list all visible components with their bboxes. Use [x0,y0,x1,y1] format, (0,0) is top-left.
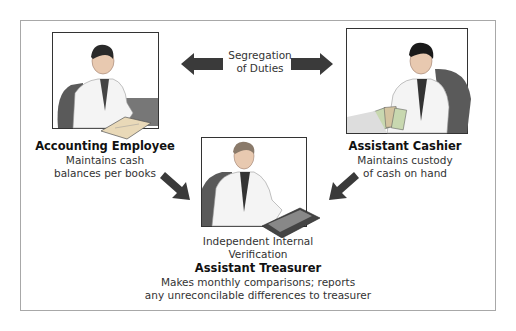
accounting-employee-title: Accounting Employee [20,139,190,154]
verification-caption-line1: Independent Internal [163,235,353,248]
arrow-right-icon [291,53,333,75]
assistant-cashier-desc-line1: Maintains custody [325,154,485,167]
assistant-cashier-illustration [346,28,468,134]
accounting-employee-illustration [52,32,159,129]
verification-caption-line2: Verification [163,248,353,261]
arrow-down-left-icon [327,172,359,202]
assistant-treasurer-desc-line1: Makes monthly comparisons; reports [138,276,378,289]
assistant-cashier-title: Assistant Cashier [325,139,485,154]
man-using-calculator-icon [202,138,327,238]
man-reading-ledger-icon [53,33,163,141]
accounting-employee-desc-line1: Maintains cash [20,154,190,167]
assistant-treasurer-desc-line2: any unreconcilable differences to treasu… [138,289,378,302]
assistant-treasurer-title: Assistant Treasurer [138,261,378,276]
assistant-treasurer-illustration [201,137,307,227]
man-counting-money-icon [347,29,475,137]
arrow-down-right-icon [160,172,192,202]
